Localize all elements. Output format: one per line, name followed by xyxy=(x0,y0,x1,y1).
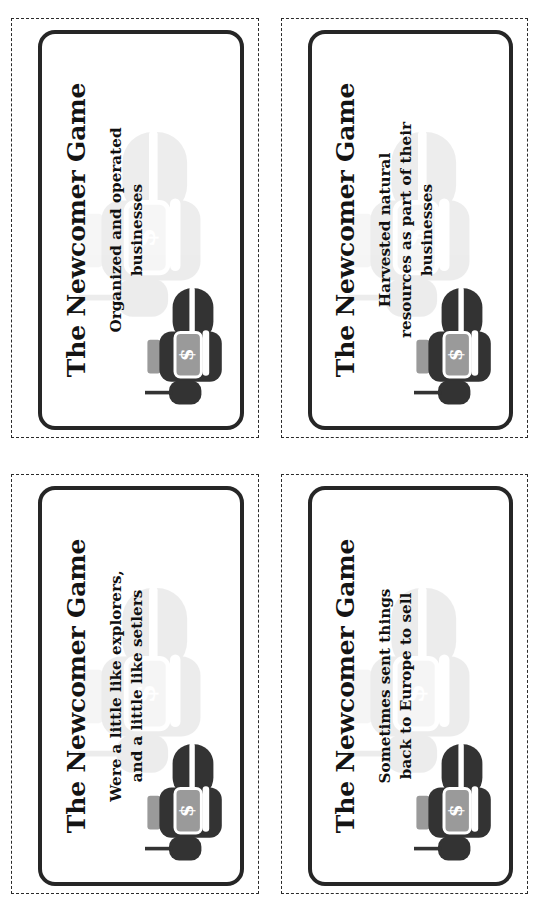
card-grid: $ The Newcomer Game Organized and operat… xyxy=(0,0,539,912)
hand-holding-money-icon: $ xyxy=(144,743,236,869)
game-card[interactable]: $ The Newcomer Game Organized and operat… xyxy=(38,30,244,430)
hand-holding-money-icon: $ xyxy=(413,743,505,869)
card-sheet: $ The Newcomer Game Organized and operat… xyxy=(0,0,539,912)
card-title: The Newcomer Game xyxy=(64,539,90,833)
card-rotated-content: $ The Newcomer Game Were a little like e… xyxy=(48,499,234,873)
cut-cell: $ The Newcomer Game Harvested natural re… xyxy=(270,0,539,456)
game-card[interactable]: $ The Newcomer Game Were a little like e… xyxy=(38,486,244,886)
card-prompt-text: Sometimes sent things back to Europe to … xyxy=(376,566,418,806)
card-prompt-text: Were a little like explorers, and a litt… xyxy=(106,566,148,806)
game-card[interactable]: $ The Newcomer Game Harvested natural re… xyxy=(308,30,514,430)
card-title: The Newcomer Game xyxy=(333,83,359,377)
svg-text:$: $ xyxy=(176,349,197,362)
hand-holding-money-icon: $ xyxy=(144,287,236,413)
card-rotated-content: $ The Newcomer Game Organized and operat… xyxy=(48,43,234,417)
svg-text:$: $ xyxy=(445,349,466,362)
card-prompt-text: Organized and operated businesses xyxy=(106,110,148,350)
card-rotated-content: $ The Newcomer Game Sometimes sent thing… xyxy=(317,499,503,873)
card-title: The Newcomer Game xyxy=(333,539,359,833)
svg-text:$: $ xyxy=(176,805,197,818)
card-title: The Newcomer Game xyxy=(64,83,90,377)
hand-holding-money-icon: $ xyxy=(413,287,505,413)
cut-cell: $ The Newcomer Game Organized and operat… xyxy=(0,0,270,456)
cut-cell: $ The Newcomer Game Were a little like e… xyxy=(0,456,270,912)
game-card[interactable]: $ The Newcomer Game Sometimes sent thing… xyxy=(308,486,514,886)
cut-cell: $ The Newcomer Game Sometimes sent thing… xyxy=(270,456,539,912)
card-rotated-content: $ The Newcomer Game Harvested natural re… xyxy=(317,43,503,417)
svg-text:$: $ xyxy=(445,805,466,818)
